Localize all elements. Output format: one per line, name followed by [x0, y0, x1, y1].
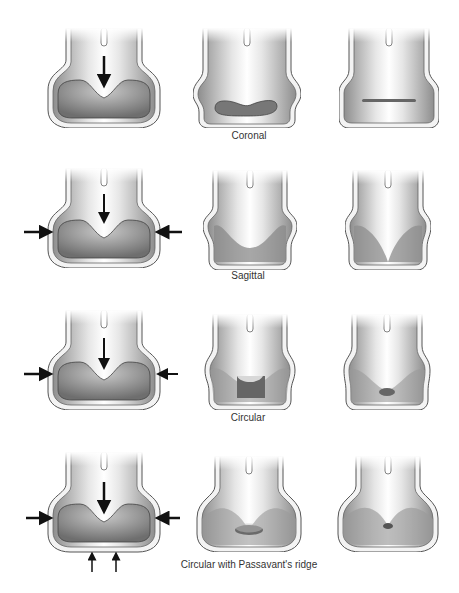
circular-closed-figure: [342, 314, 432, 410]
coronal-closed-figure: [339, 28, 439, 128]
coronal-rest-figure: [44, 28, 164, 128]
passavant-mid-figure: [195, 456, 303, 552]
sagittal-rest-figure: [24, 168, 184, 268]
passavant-closed-figure: [336, 456, 440, 552]
row-label-circular: Circular: [231, 412, 265, 423]
sagittal-closed-figure: [345, 170, 431, 270]
passavant-rest-figure: [24, 452, 184, 574]
row-label-passavant: Circular with Passavant's ridge: [181, 559, 317, 570]
circular-rest-figure: [24, 310, 184, 410]
sagittal-mid-figure: [203, 170, 297, 270]
row-label-sagittal: Sagittal: [231, 270, 264, 281]
coronal-mid-figure: [193, 28, 301, 128]
row-label-coronal: Coronal: [231, 130, 266, 141]
circular-mid-figure: [203, 314, 297, 410]
